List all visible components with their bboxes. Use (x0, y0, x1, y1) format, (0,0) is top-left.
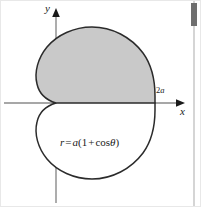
y-axis-arrow-icon (52, 8, 60, 17)
x-axis-label: x (180, 106, 185, 117)
cardioid-figure: y x 2a r=a(1+cosθ) (0, 0, 201, 207)
plot-canvas (0, 0, 201, 207)
scrollbar-thumb[interactable] (191, 3, 197, 26)
equation-equals: = (64, 136, 72, 148)
y-axis-label: y (45, 3, 50, 14)
cardioid-upper-half-shaded (36, 27, 155, 103)
polar-equation-label: r=a(1+cosθ) (60, 137, 119, 148)
equation-close-paren: ) (115, 136, 119, 148)
x-intercept-label: 2a (156, 86, 165, 95)
intercept-variable: a (160, 85, 164, 95)
scrollbar-track[interactable] (193, 0, 195, 207)
equation-cos: cos (95, 136, 110, 148)
